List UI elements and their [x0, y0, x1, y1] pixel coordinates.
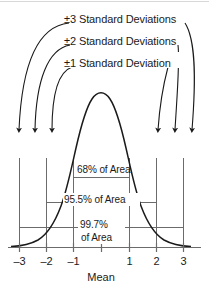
- arrow-sd3-right: [185, 23, 194, 130]
- x-axis-title: Mean: [71, 272, 131, 283]
- callout-label-sd1: ±1 Standard Deviation: [64, 58, 171, 69]
- area-label-68: 68% of Area: [77, 165, 130, 175]
- axis-tick-label-minus2: –2: [38, 256, 56, 267]
- axis-tick-label-plus2: 2: [148, 256, 166, 267]
- arrow-sd1-left: [52, 67, 72, 130]
- axis-tick-label-plus1: 1: [121, 256, 139, 267]
- axis-tick-label-plus3: 3: [175, 256, 193, 267]
- axis-tick-label-minus1: –1: [65, 256, 83, 267]
- axis-tick-label-minus3: –3: [11, 256, 29, 267]
- normal-distribution-figure: ±3 Standard Deviations ±2 Standard Devia…: [0, 0, 209, 289]
- arrow-sd1-right: [158, 67, 168, 130]
- area-label-997-suffix: of Area: [81, 233, 112, 243]
- area-label-955: 95.5% of Area: [64, 195, 126, 205]
- callout-label-sd2: ±2 Standard Deviations: [64, 36, 176, 47]
- callout-label-sd3: ±3 Standard Deviations: [64, 14, 176, 25]
- area-label-997: 99.7%: [80, 220, 108, 230]
